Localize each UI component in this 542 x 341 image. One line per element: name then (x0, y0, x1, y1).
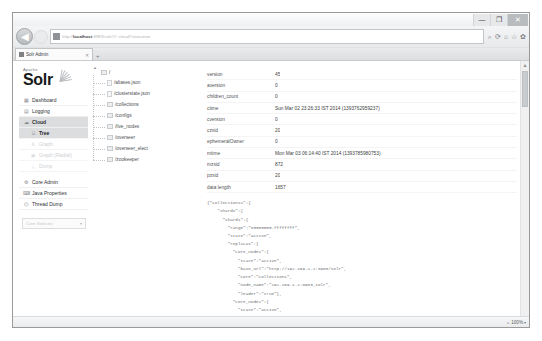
folder-icon (107, 102, 113, 107)
browser-status-bar: ⌕ 100% ▾ (13, 316, 529, 327)
folder-icon (107, 146, 113, 151)
table-row: cversion 0 (207, 114, 517, 125)
tree-root-label: / (109, 70, 110, 75)
table-row: ephemeralOwner 0 (207, 137, 517, 148)
zookeeper-tree-panel: ▲ / /aliases.json /cl (91, 65, 199, 327)
sidebar-item-label: Cloud (32, 119, 46, 125)
tree-node[interactable]: /aliases.json (107, 77, 199, 88)
sidebar-subitem-label: Graph (Radial) (39, 152, 72, 158)
new-tab-button[interactable]: + (96, 53, 100, 60)
back-arrow-icon[interactable]: ◀ (16, 28, 33, 45)
tree-node-label: /overseer (115, 135, 135, 140)
tab-solr-admin[interactable]: Solr Admin ✕ (15, 48, 93, 60)
table-row: aversion 0 (207, 80, 517, 91)
sidebar-item-label: Core Admin (32, 179, 58, 185)
property-value: Sun Mar 02 23:26:33 IST 2014 (1393762959… (275, 106, 380, 111)
property-value: 1657 (275, 185, 286, 190)
tab-strip: Solr Admin ✕ + (13, 48, 529, 61)
tree-node[interactable]: /zookeeper (107, 154, 199, 165)
sidebar: Apache Solr ▦ (19, 65, 91, 327)
tree-icon: ⌸ (30, 130, 36, 136)
sidebar-item-label: Thread Dump (32, 201, 63, 207)
property-key: version (207, 72, 275, 77)
tab-close-icon[interactable]: ✕ (85, 52, 89, 58)
page-scrollbar-thumb[interactable] (522, 71, 528, 107)
minimize-button[interactable]: — (473, 14, 490, 26)
sidebar-item-dashboard[interactable]: ▦ Dashboard (19, 95, 88, 106)
refresh-icon[interactable]: ⟳ (495, 33, 501, 41)
property-key: pzxid (207, 173, 275, 178)
tree-root-node[interactable]: / (91, 68, 199, 77)
property-value: 0 (275, 83, 278, 88)
maximize-button[interactable]: ❐ (490, 14, 507, 26)
content-area: ▲ / /aliases.json /cl (91, 65, 529, 327)
folder-icon (107, 157, 113, 162)
znode-properties-table: version 45 aversion 0 children_count 0 (207, 69, 517, 193)
tab-label: Solr Admin (26, 52, 48, 57)
sidebar-nav-primary: ▦ Dashboard ▤ Logging ☁ Cloud ⌸ (19, 95, 88, 210)
file-icon (107, 80, 112, 86)
gear-icon[interactable]: ✿ (520, 33, 526, 41)
property-key: mzxid (207, 162, 275, 167)
property-value: 0 (275, 139, 278, 144)
property-value: 872 (275, 162, 283, 167)
folder-icon (107, 135, 113, 140)
sidebar-item-logging[interactable]: ▤ Logging (19, 106, 88, 117)
table-row: ctime Sun Mar 02 23:26:33 IST 2014 (1393… (207, 103, 517, 114)
core-selector-dropdown[interactable]: Core Selector ▾ (22, 218, 86, 229)
star-icon[interactable]: ☆ (511, 33, 517, 41)
tree-node-label: /live_nodes (115, 124, 139, 129)
search-icon[interactable]: ⌕ (488, 33, 492, 41)
tree-node[interactable]: /overseer (107, 132, 199, 143)
scroll-up-icon[interactable]: ▲ (521, 61, 529, 69)
tree-node-label: /collections (115, 102, 139, 107)
close-button[interactable]: ✕ (507, 14, 528, 26)
tree-node[interactable]: /configs (107, 110, 199, 121)
property-key: children_count (207, 94, 275, 99)
sidebar-item-thread-dump[interactable]: ⌬ Thread Dump (19, 199, 88, 210)
tree-node[interactable]: /overseer_elect (107, 143, 199, 154)
page-scrollbar[interactable]: ▲ (520, 61, 529, 316)
window-titlebar[interactable]: — ❐ ✕ (13, 13, 529, 26)
tree-node[interactable]: /clusterstate.json (107, 88, 199, 99)
tree-scroll-up-icon[interactable]: ▲ (93, 65, 97, 70)
folder-icon (107, 113, 113, 118)
home-icon[interactable]: ⌂ (504, 33, 508, 40)
tree-node-label: /overseer_elect (115, 146, 148, 151)
solr-logo[interactable]: Apache Solr (19, 65, 88, 94)
core-selector-label: Core Selector (26, 221, 53, 226)
sidebar-item-graph[interactable]: ⋔ Graph (19, 139, 88, 150)
zoom-level-indicator[interactable]: ⌕ 100% ▾ (507, 320, 526, 325)
logo-rays-icon (60, 66, 86, 82)
address-bar[interactable]: http://localhost:8983/solr/#/~cloud?view… (50, 29, 484, 44)
sidebar-item-graph-radial[interactable]: ◉ Graph (Radial) (19, 150, 88, 161)
sidebar-item-core-admin[interactable]: ⚙ Core Admin (19, 177, 88, 188)
tree-node-label: /clusterstate.json (114, 91, 150, 96)
tree-node[interactable]: /live_nodes (107, 121, 199, 132)
table-row: mzxid 872 (207, 159, 517, 170)
sidebar-item-dump[interactable]: ⤓ Dump (19, 161, 88, 172)
sidebar-subitem-label: Dump (39, 163, 52, 169)
sidebar-subitem-label: Tree (39, 130, 49, 136)
folder-icon (107, 124, 113, 129)
sidebar-item-java-properties[interactable]: ⌨ Java Properties (19, 188, 88, 199)
sidebar-item-tree[interactable]: ⌸ Tree (19, 128, 88, 139)
chevron-down-icon: ▾ (524, 320, 526, 325)
solr-admin-page: Apache Solr ▦ (13, 61, 529, 327)
sidebar-subitem-label: Graph (39, 141, 53, 147)
dump-icon: ⤓ (30, 163, 36, 169)
radial-graph-icon: ◉ (30, 152, 36, 158)
forward-arrow-icon[interactable] (34, 30, 48, 44)
dashboard-icon: ▦ (23, 97, 29, 103)
browser-window: — ❐ ✕ ◀ http://localhost:8983/solr/#/~cl… (12, 12, 530, 328)
table-row: version 45 (207, 69, 517, 80)
property-value: Mon Mar 03 06:14:40 IST 2014 (1393785980… (275, 151, 381, 156)
site-favicon-icon (53, 33, 60, 40)
sidebar-item-label: Logging (32, 108, 50, 114)
node-detail-panel: version 45 aversion 0 children_count 0 (199, 65, 517, 327)
table-row: pzxid 20 (207, 171, 517, 182)
browser-navigation-bar: ◀ http://localhost:8983/solr/#/~cloud?vi… (13, 26, 529, 48)
tree-node[interactable]: /collections (107, 99, 199, 110)
sidebar-item-cloud[interactable]: ☁ Cloud (19, 117, 88, 128)
tree-node-list: /aliases.json /clusterstate.json /collec… (91, 77, 199, 165)
